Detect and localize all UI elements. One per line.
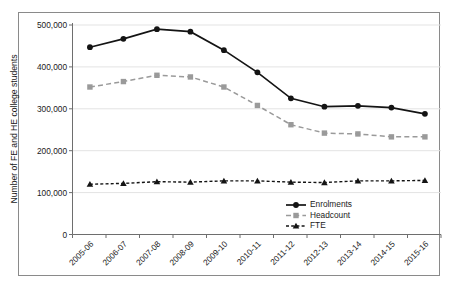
x-tick-label: 2008-09	[167, 239, 196, 268]
x-axis-ticks	[73, 235, 442, 239]
data-point	[154, 26, 160, 32]
data-point	[322, 104, 328, 110]
legend-marker	[293, 213, 298, 218]
y-axis-title: Number of FE and HE college students	[9, 54, 19, 203]
data-point	[121, 79, 126, 84]
x-tick-label: 2015-16	[402, 239, 431, 268]
x-tick-label: 2010-11	[235, 239, 263, 267]
legend-item[interactable]: Headcount	[286, 210, 351, 220]
legend-item[interactable]: Enrolments	[286, 199, 352, 209]
y-tick-label: 200,000	[37, 146, 67, 156]
x-tick-label: 2012-13	[301, 239, 330, 268]
legend-marker	[293, 202, 299, 208]
x-tick-label: 2013-14	[335, 239, 364, 268]
x-tick-label: 2011-12	[268, 239, 296, 267]
data-point	[288, 95, 294, 101]
x-tick-label: 2009-10	[201, 239, 230, 268]
x-tick-label: 2006-07	[100, 239, 129, 268]
data-point	[322, 130, 327, 135]
data-point	[355, 103, 361, 109]
data-point	[87, 84, 92, 89]
data-point	[389, 134, 394, 139]
data-point	[422, 111, 428, 117]
x-axis-labels: 2005-062006-072007-082008-092009-102010-…	[67, 239, 431, 268]
data-point	[121, 36, 127, 42]
y-tick-label: 0	[62, 230, 67, 240]
y-tick-label: 400,000	[37, 62, 67, 72]
data-point	[255, 103, 260, 108]
data-point	[188, 29, 194, 35]
data-point	[154, 73, 159, 78]
chart-legend: EnrolmentsHeadcountFTE	[286, 199, 352, 230]
data-point	[188, 74, 193, 79]
x-tick-label: 2014-15	[368, 239, 397, 268]
y-axis-ticks: 0100,000200,000300,000400,000500,000	[37, 20, 73, 240]
y-tick-label: 300,000	[37, 104, 67, 114]
legend-label: Enrolments	[310, 199, 352, 209]
x-tick-label: 2005-06	[67, 239, 96, 268]
gridlines	[73, 25, 442, 193]
y-tick-label: 500,000	[37, 20, 67, 30]
data-point	[254, 178, 261, 184]
data-point	[221, 84, 226, 89]
x-tick-label: 2007-08	[134, 239, 163, 268]
chart-svg: 0100,000200,000300,000400,000500,000 200…	[0, 0, 458, 291]
data-point	[87, 44, 93, 50]
data-point	[389, 105, 395, 111]
data-point	[221, 47, 227, 53]
data-point	[255, 69, 261, 75]
data-point	[422, 134, 427, 139]
data-point	[187, 179, 194, 185]
legend-label: Headcount	[310, 210, 351, 220]
data-point	[355, 131, 360, 136]
series-fte	[87, 177, 429, 187]
y-tick-label: 100,000	[37, 188, 67, 198]
line-chart: 0100,000200,000300,000400,000500,000 200…	[0, 0, 458, 291]
data-point	[288, 122, 293, 127]
legend-label: FTE	[310, 220, 326, 230]
legend-item[interactable]: FTE	[286, 220, 326, 230]
